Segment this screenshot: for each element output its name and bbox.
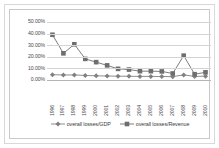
legend-label: overall losses/GDP xyxy=(67,121,111,127)
x-axis-tick-label: 2006 xyxy=(158,105,164,116)
x-axis-tick-label: 1998 xyxy=(70,105,76,116)
x-axis-line xyxy=(47,80,211,81)
x-axis-tick-label: 2002 xyxy=(114,105,120,116)
y-axis-labels: 0.00%10.00%20.00%30.00%40.00%50.00% xyxy=(12,22,45,80)
chart-screenshot: 0.00%10.00%20.00%30.00%40.00%50.00% 1996… xyxy=(0,0,219,148)
y-axis-tick-label: 10.00% xyxy=(28,66,45,71)
x-axis-tick-label: 2005 xyxy=(147,105,153,116)
x-axis-tick-label: 2000 xyxy=(92,105,98,116)
gridline xyxy=(47,68,211,69)
y-axis-tick-label: 40.00% xyxy=(28,31,45,36)
x-axis-tick-label: 2008 xyxy=(180,105,186,116)
y-axis-tick-label: 30.00% xyxy=(28,43,45,48)
x-axis-tick-label: 2007 xyxy=(169,105,175,116)
x-axis-tick-label: 1999 xyxy=(81,105,87,116)
legend-square-icon xyxy=(120,120,134,128)
data-point-marker xyxy=(203,70,208,75)
data-point-marker xyxy=(116,74,121,79)
plot-area xyxy=(47,22,211,80)
data-point-marker xyxy=(127,74,132,79)
data-point-marker xyxy=(160,69,165,74)
x-axis-tick-label: 2010 xyxy=(202,105,208,116)
legend-item[interactable]: overall losses/GDP xyxy=(51,120,111,128)
data-point-marker xyxy=(192,72,197,77)
data-point-marker xyxy=(181,72,186,77)
data-point-marker xyxy=(148,74,153,79)
chart-legend: overall losses/GDPoverall losses/Revenue xyxy=(22,118,218,130)
legend-diamond-icon xyxy=(51,120,65,128)
data-point-marker xyxy=(61,51,66,56)
x-axis-tick-label: 1997 xyxy=(59,105,65,116)
legend-label: overall losses/Revenue xyxy=(136,121,190,127)
x-axis-tick-label: 1996 xyxy=(49,105,55,116)
data-point-marker xyxy=(170,71,175,76)
gridline xyxy=(47,57,211,58)
x-axis-tick-label: 2001 xyxy=(103,105,109,116)
data-point-marker xyxy=(72,72,77,77)
gridline xyxy=(47,22,211,23)
data-point-marker xyxy=(105,74,110,79)
x-axis-tick-label: 2003 xyxy=(125,105,131,116)
data-point-marker xyxy=(83,73,88,78)
data-point-marker xyxy=(94,73,99,78)
chart-container: 0.00%10.00%20.00%30.00%40.00%50.00% 1996… xyxy=(9,9,210,139)
gridline xyxy=(47,45,211,46)
x-axis-labels: 1996199719981999200020012002200320042005… xyxy=(47,82,211,116)
legend-item[interactable]: overall losses/Revenue xyxy=(120,120,190,128)
y-axis-tick-label: 50.00% xyxy=(28,19,45,24)
data-point-marker xyxy=(61,73,66,78)
data-point-marker xyxy=(138,69,143,74)
x-axis-tick-label: 2004 xyxy=(136,105,142,116)
series-canvas xyxy=(47,22,211,80)
data-point-marker xyxy=(137,74,142,79)
data-point-marker xyxy=(94,60,99,65)
y-axis-tick-label: 20.00% xyxy=(28,54,45,59)
data-point-marker xyxy=(50,72,55,77)
gridline xyxy=(47,34,211,35)
y-axis-tick-label: 0.00% xyxy=(31,77,45,82)
data-point-marker xyxy=(105,63,110,68)
data-point-marker xyxy=(149,69,154,74)
data-point-marker xyxy=(159,74,164,79)
x-axis-tick-label: 2009 xyxy=(191,105,197,116)
